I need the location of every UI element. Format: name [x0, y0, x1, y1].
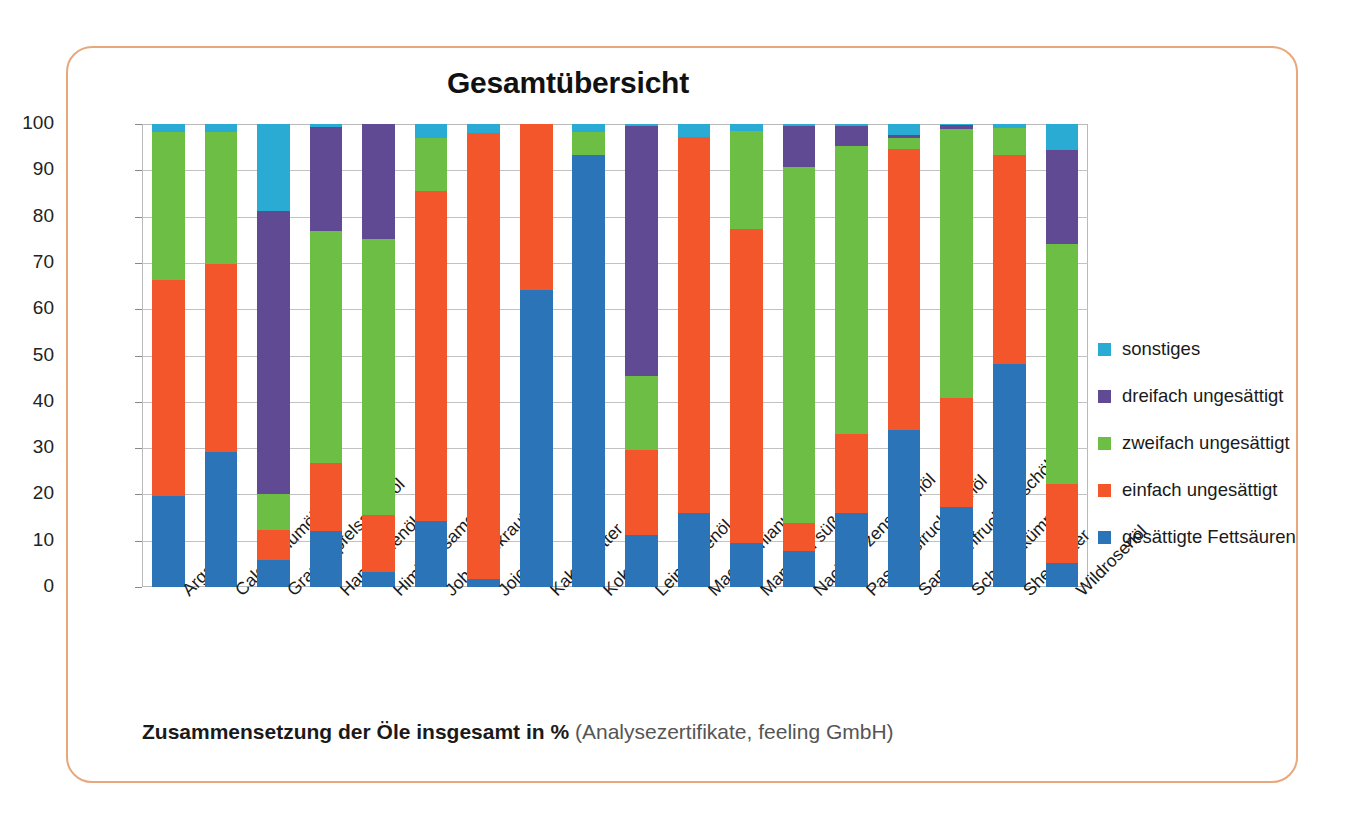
bar-segment[interactable]	[415, 191, 448, 522]
bar-segment[interactable]	[783, 523, 816, 551]
bar-segment[interactable]	[625, 535, 658, 587]
bar-slot[interactable]: Sheabutter	[983, 124, 1036, 587]
bar-segment[interactable]	[152, 496, 185, 587]
stacked-bar[interactable]	[625, 124, 658, 587]
bar-segment[interactable]	[415, 138, 448, 191]
bar-segment[interactable]	[625, 450, 658, 535]
bar-segment[interactable]	[730, 229, 763, 544]
bar-segment[interactable]	[310, 127, 343, 231]
bar-segment[interactable]	[362, 239, 395, 515]
stacked-bar[interactable]	[257, 124, 290, 587]
bar-segment[interactable]	[362, 515, 395, 572]
bar-segment[interactable]	[520, 290, 553, 587]
bar-slot[interactable]: Granatapfelsamenöl	[247, 124, 300, 587]
bar-segment[interactable]	[888, 124, 921, 135]
bar-segment[interactable]	[572, 132, 605, 154]
stacked-bar[interactable]	[783, 124, 816, 587]
bar-segment[interactable]	[835, 146, 868, 434]
bar-segment[interactable]	[362, 124, 395, 239]
bar-segment[interactable]	[940, 129, 973, 398]
bar-segment[interactable]	[257, 494, 290, 530]
stacked-bar[interactable]	[835, 124, 868, 587]
bar-segment[interactable]	[257, 124, 290, 211]
stacked-bar[interactable]	[415, 124, 448, 587]
legend-item-einfach[interactable]: einfach ungesättigt	[1098, 479, 1348, 501]
bar-segment[interactable]	[730, 131, 763, 228]
bar-segment[interactable]	[572, 155, 605, 587]
bar-slot[interactable]: Mandelöl süß	[720, 124, 773, 587]
bar-segment[interactable]	[310, 531, 343, 587]
bar-segment[interactable]	[1046, 124, 1079, 150]
bar-slot[interactable]: Passionsfruchtkernöl	[825, 124, 878, 587]
bar-segment[interactable]	[835, 434, 868, 514]
stacked-bar[interactable]	[310, 124, 343, 587]
bar-slot[interactable]: Kakaobutter	[510, 124, 563, 587]
bar-segment[interactable]	[1046, 484, 1079, 563]
bar-segment[interactable]	[415, 124, 448, 138]
bar-segment[interactable]	[1046, 150, 1079, 244]
stacked-bar[interactable]	[940, 124, 973, 587]
bar-segment[interactable]	[678, 124, 711, 137]
bar-segment[interactable]	[205, 124, 238, 132]
bar-slot[interactable]: Arganöl	[142, 124, 195, 587]
bar-segment[interactable]	[888, 138, 921, 150]
bar-segment[interactable]	[1046, 244, 1079, 484]
bar-slot[interactable]: Leinsamenöl	[615, 124, 668, 587]
bar-segment[interactable]	[783, 167, 816, 523]
stacked-bar[interactable]	[467, 124, 500, 587]
legend-item-dreifach[interactable]: dreifach ungesättigt	[1098, 385, 1348, 407]
legend-item-sonstiges[interactable]: sonstiges	[1098, 338, 1348, 360]
stacked-bar[interactable]	[993, 124, 1026, 587]
bar-segment[interactable]	[888, 149, 921, 429]
bar-segment[interactable]	[888, 430, 921, 587]
bar-segment[interactable]	[993, 128, 1026, 155]
bar-slot[interactable]: Calophyllumöl	[195, 124, 248, 587]
bar-slot[interactable]: Johanniskrautöl	[405, 124, 458, 587]
bar-segment[interactable]	[152, 124, 185, 132]
stacked-bar[interactable]	[572, 124, 605, 587]
bar-segment[interactable]	[205, 264, 238, 452]
legend-item-zweifach[interactable]: zweifach ungesättigt	[1098, 432, 1348, 454]
bar-slot[interactable]: Himbeersamenöl	[352, 124, 405, 587]
bar-segment[interactable]	[310, 463, 343, 532]
bar-segment[interactable]	[730, 124, 763, 131]
stacked-bar[interactable]	[730, 124, 763, 587]
bar-segment[interactable]	[257, 211, 290, 493]
stacked-bar[interactable]	[1046, 124, 1079, 587]
bar-segment[interactable]	[783, 126, 816, 167]
bar-slot[interactable]: Kokosöl	[563, 124, 616, 587]
bar-segment[interactable]	[257, 530, 290, 561]
bar-segment[interactable]	[205, 452, 238, 587]
bar-segment[interactable]	[520, 124, 553, 290]
bar-segment[interactable]	[467, 133, 500, 578]
bar-slot[interactable]: Jojoba	[457, 124, 510, 587]
stacked-bar[interactable]	[152, 124, 185, 587]
bar-segment[interactable]	[940, 507, 973, 587]
bar-slot[interactable]: Wildrosenöl	[1036, 124, 1089, 587]
bar-slot[interactable]: Sanddornfruchtfleischöl	[878, 124, 931, 587]
bar-segment[interactable]	[678, 137, 711, 514]
bar-segment[interactable]	[152, 132, 185, 280]
bar-segment[interactable]	[835, 513, 868, 587]
bar-segment[interactable]	[467, 124, 500, 133]
stacked-bar[interactable]	[678, 124, 711, 587]
bar-segment[interactable]	[625, 376, 658, 450]
bar-segment[interactable]	[993, 364, 1026, 587]
stacked-bar[interactable]	[888, 124, 921, 587]
bar-segment[interactable]	[625, 126, 658, 376]
bar-segment[interactable]	[205, 132, 238, 263]
bar-segment[interactable]	[415, 521, 448, 587]
stacked-bar[interactable]	[520, 124, 553, 587]
bar-slot[interactable]: Schwarzkümmelöl	[930, 124, 983, 587]
bar-segment[interactable]	[152, 280, 185, 496]
stacked-bar[interactable]	[362, 124, 395, 587]
bar-segment[interactable]	[940, 398, 973, 507]
bar-segment[interactable]	[730, 543, 763, 587]
bar-slot[interactable]: Macadamianussöl	[668, 124, 721, 587]
bar-slot[interactable]: Nachtkerzensamenöl	[773, 124, 826, 587]
bar-slot[interactable]: Hanfsamenöl	[300, 124, 353, 587]
bar-segment[interactable]	[678, 513, 711, 587]
stacked-bar[interactable]	[205, 124, 238, 587]
bar-segment[interactable]	[310, 231, 343, 463]
bar-segment[interactable]	[572, 124, 605, 132]
